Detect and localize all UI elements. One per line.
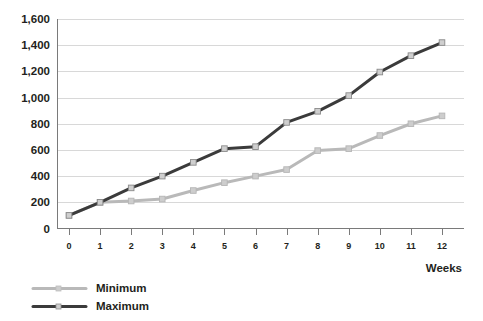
- data-point-marker-maximum: [191, 160, 197, 166]
- chart-background: [0, 0, 483, 321]
- data-point-marker-minimum: [128, 198, 134, 204]
- data-point-marker-minimum: [222, 180, 228, 186]
- data-point-marker-maximum: [408, 53, 414, 59]
- data-point-marker-maximum: [346, 93, 352, 99]
- x-axis-tick-label: 2: [129, 241, 134, 251]
- y-axis-tick-label: 1,600: [21, 13, 50, 25]
- x-axis-tick-label: 6: [253, 241, 258, 251]
- x-axis-tick-label: 9: [346, 241, 351, 251]
- data-point-marker-maximum: [439, 40, 445, 46]
- y-axis-tick-label: 1,000: [21, 92, 50, 104]
- x-axis-tick-label: 0: [66, 241, 71, 251]
- chart-canvas: 02004006008001,0001,2001,4001,600 012345…: [0, 0, 483, 321]
- data-point-marker-maximum: [66, 213, 72, 219]
- line-chart: 02004006008001,0001,2001,4001,600 012345…: [0, 0, 483, 321]
- x-axis-tick-label: 1: [98, 241, 103, 251]
- y-axis-tick-label: 1,200: [21, 65, 50, 77]
- x-axis-tick-label: 5: [222, 241, 227, 251]
- x-axis-title: Weeks: [426, 262, 462, 274]
- y-axis-tick-label: 1,400: [21, 39, 50, 51]
- x-axis-tick-label: 7: [284, 241, 289, 251]
- data-point-marker-minimum: [284, 167, 290, 173]
- data-point-marker-maximum: [97, 200, 103, 206]
- x-axis-tick-label: 10: [375, 241, 385, 251]
- y-axis-tick-label: 200: [31, 196, 50, 208]
- data-point-marker-minimum: [377, 133, 383, 139]
- legend-label-maximum: Maximum: [96, 300, 149, 312]
- legend-label-minimum: Minimum: [96, 282, 146, 294]
- data-point-marker-minimum: [253, 173, 259, 179]
- y-axis-tick-label: 800: [31, 118, 50, 130]
- y-axis-tick-label: 400: [31, 170, 50, 182]
- data-point-marker-minimum: [159, 196, 165, 202]
- data-point-marker-maximum: [253, 144, 259, 150]
- data-point-marker-minimum: [346, 146, 352, 152]
- x-axis-tick-label: 4: [191, 241, 196, 251]
- data-point-marker-maximum: [377, 69, 383, 75]
- data-point-marker-minimum: [439, 113, 445, 119]
- data-point-marker-minimum: [191, 188, 197, 194]
- x-axis-tick-label: 11: [406, 241, 416, 251]
- data-point-marker-minimum: [315, 148, 321, 154]
- x-axis-tick-label: 12: [437, 241, 447, 251]
- x-axis-tick-label: 8: [315, 241, 320, 251]
- data-point-marker-maximum: [159, 173, 165, 179]
- legend-marker-minimum: [56, 286, 61, 291]
- x-axis-tick-label: 3: [160, 241, 165, 251]
- y-axis-tick-label: 0: [44, 223, 50, 235]
- data-point-marker-minimum: [408, 121, 414, 127]
- legend-marker-maximum: [56, 304, 61, 309]
- data-point-marker-maximum: [128, 185, 134, 191]
- data-point-marker-maximum: [315, 109, 321, 115]
- data-point-marker-maximum: [284, 120, 290, 126]
- y-axis-tick-label: 600: [31, 144, 50, 156]
- data-point-marker-maximum: [222, 146, 228, 152]
